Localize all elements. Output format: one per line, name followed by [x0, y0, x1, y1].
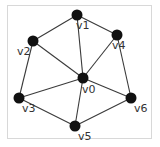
edge-v5-v6: [75, 98, 131, 126]
edge-v2-v0: [33, 41, 83, 78]
edge-v3-v0: [19, 78, 83, 98]
node-label-v0: v0: [82, 83, 96, 96]
edge-v1-v2: [33, 15, 77, 41]
node-label-v6: v6: [134, 102, 148, 115]
node-label-v1: v1: [76, 19, 90, 32]
node-label-v2: v2: [17, 45, 31, 58]
graph-diagram: v0v1v2v3v4v5v6: [0, 0, 160, 147]
node-label-v5: v5: [78, 130, 92, 143]
node-label-v3: v3: [22, 102, 36, 115]
node-label-v4: v4: [112, 39, 126, 52]
node-v0: [78, 73, 89, 84]
